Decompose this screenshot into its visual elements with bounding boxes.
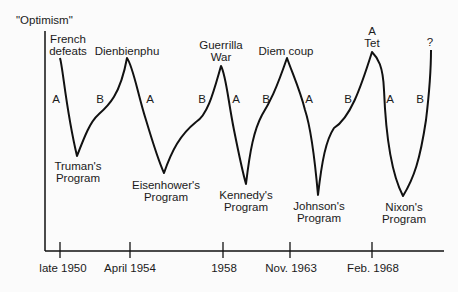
peak-label-tet: A Tet xyxy=(364,25,379,49)
tick-label: Feb. 1968 xyxy=(347,262,399,274)
trough-label-nixon: Nixon's Program xyxy=(382,201,426,225)
phase-label-b: B xyxy=(416,93,424,105)
peak-label-french-defeats: French defeats xyxy=(49,33,87,57)
phase-label-a: A xyxy=(232,93,240,105)
trough-label-truman: Truman's Program xyxy=(54,160,101,184)
tick-label: 1958 xyxy=(211,262,237,274)
peak-label-question: ? xyxy=(427,36,433,48)
trough-label-eisenhower: Eisenhower's Program xyxy=(132,179,200,203)
trough-label-johnson: Johnson's Program xyxy=(293,200,344,224)
tick-label: late 1950 xyxy=(39,262,86,274)
phase-label-b: B xyxy=(96,93,104,105)
phase-label-a: A xyxy=(305,93,313,105)
optimism-curve xyxy=(60,50,431,196)
phase-label-a: A xyxy=(386,93,394,105)
y-axis-label: "Optimism" xyxy=(16,14,73,26)
phase-label-b: B xyxy=(344,93,352,105)
trough-label-kennedy: Kennedy's Program xyxy=(219,189,272,213)
phase-label-a: A xyxy=(146,93,154,105)
tick-label: April 1954 xyxy=(104,262,156,274)
phase-label-a: A xyxy=(52,93,60,105)
phase-label-b: B xyxy=(262,93,270,105)
peak-label-dienbienphu: Dienbienphu xyxy=(95,45,160,57)
peak-label-diem-coup: Diem coup xyxy=(259,45,314,57)
peak-label-guerrilla-war: Guerrilla War xyxy=(199,39,242,63)
phase-label-b: B xyxy=(198,93,206,105)
tick-label: Nov. 1963 xyxy=(265,262,317,274)
